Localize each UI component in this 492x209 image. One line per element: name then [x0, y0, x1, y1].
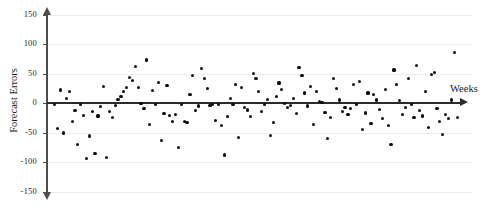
data-point: [240, 86, 243, 89]
y-axis-arrow-down-icon: [43, 192, 51, 200]
data-point: [203, 77, 206, 80]
data-point: [99, 105, 102, 108]
data-point: [329, 116, 332, 119]
data-point: [180, 103, 183, 106]
data-point: [237, 136, 240, 139]
gridline: [47, 74, 472, 75]
data-point: [177, 146, 180, 149]
data-point: [372, 93, 375, 96]
data-point: [56, 127, 59, 130]
data-point: [214, 119, 217, 122]
y-axis-title: Forecast Errors: [8, 58, 19, 144]
forecast-errors-scatter-chart: 150100500-50-100-150 Forecast Errors Wee…: [0, 0, 492, 209]
data-point: [108, 110, 111, 113]
data-point: [160, 139, 163, 142]
data-point: [349, 107, 352, 110]
data-point: [277, 81, 280, 84]
data-point: [430, 73, 433, 76]
data-point: [381, 117, 384, 120]
data-point: [165, 84, 168, 87]
data-point: [289, 104, 292, 107]
data-point: [234, 83, 237, 86]
data-point: [378, 108, 381, 111]
data-point: [119, 95, 122, 98]
data-point: [404, 106, 407, 109]
data-point: [96, 114, 99, 117]
data-point: [332, 77, 335, 80]
data-point: [62, 131, 65, 134]
data-point: [346, 113, 349, 116]
y-tick-label: 100: [11, 38, 37, 48]
data-point: [438, 120, 441, 123]
gridline: [47, 133, 472, 134]
data-point: [93, 152, 96, 155]
data-point: [151, 89, 154, 92]
data-point: [309, 85, 312, 88]
x-axis-line: [47, 102, 460, 104]
gridline: [47, 44, 472, 45]
data-point: [200, 67, 203, 70]
data-point: [88, 134, 91, 137]
data-point: [223, 153, 226, 156]
data-point: [315, 90, 318, 93]
data-point: [53, 103, 56, 106]
data-point: [162, 112, 165, 115]
data-point: [71, 120, 74, 123]
data-point: [154, 103, 157, 106]
data-point: [114, 104, 117, 107]
data-point: [326, 137, 329, 140]
data-point: [59, 88, 62, 91]
data-point: [435, 107, 438, 110]
data-point: [295, 112, 298, 115]
data-point: [139, 102, 142, 105]
data-point: [73, 109, 76, 112]
data-point: [410, 103, 413, 106]
data-point: [369, 122, 372, 125]
data-point: [263, 103, 266, 106]
data-point: [389, 143, 392, 146]
data-point: [421, 114, 424, 117]
data-point: [401, 113, 404, 116]
data-point: [272, 121, 275, 124]
data-point: [226, 115, 229, 118]
data-point: [384, 88, 387, 91]
x-axis-title: Weeks: [450, 83, 478, 94]
data-point: [433, 71, 436, 74]
y-tick-label: -100: [11, 156, 37, 166]
data-point: [206, 87, 209, 90]
data-point: [194, 109, 197, 112]
data-point: [157, 81, 160, 84]
data-point: [249, 115, 252, 118]
data-point: [116, 98, 119, 101]
data-point: [188, 93, 191, 96]
data-point: [352, 83, 355, 86]
data-point: [444, 113, 447, 116]
data-point: [387, 124, 390, 127]
data-point: [395, 83, 398, 86]
data-point: [82, 114, 85, 117]
data-point: [131, 79, 134, 82]
data-point: [168, 114, 171, 117]
data-point: [148, 123, 151, 126]
data-point: [335, 87, 338, 90]
data-point: [217, 103, 220, 106]
data-point: [364, 111, 367, 114]
data-point: [171, 120, 174, 123]
data-point: [76, 143, 79, 146]
data-point: [134, 65, 137, 68]
data-point: [418, 109, 421, 112]
data-point: [191, 74, 194, 77]
data-point: [105, 156, 108, 159]
data-point: [456, 116, 459, 119]
data-point: [111, 116, 114, 119]
data-point: [122, 90, 125, 93]
data-point: [91, 110, 94, 113]
data-point: [343, 106, 346, 109]
data-point: [125, 86, 128, 89]
data-point: [102, 85, 105, 88]
data-point: [65, 97, 68, 100]
data-point: [338, 98, 341, 101]
y-axis-arrow-up-icon: [43, 7, 51, 15]
data-point: [137, 86, 140, 89]
data-point: [341, 110, 344, 113]
